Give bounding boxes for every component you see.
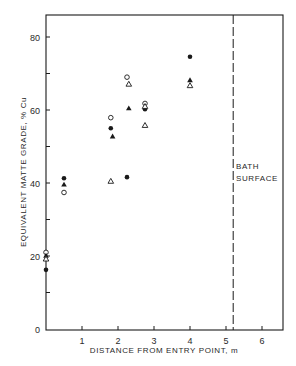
open-triangle-marker [126, 81, 132, 86]
filled-circle-marker [62, 176, 67, 181]
y-tick-label: 0 [35, 325, 40, 335]
x-tick-label: 6 [259, 336, 264, 346]
x-tick-label: 3 [151, 336, 156, 346]
bath-surface-label-line2: SURFACE [236, 174, 278, 183]
filled-triangle-marker [126, 105, 132, 110]
filled-triangle-marker [110, 133, 116, 138]
open-circle-marker [62, 190, 67, 195]
filled-circle-marker [44, 268, 49, 273]
y-tick-label: 20 [30, 252, 40, 262]
open-circle-marker [109, 115, 114, 120]
y-tick-label: 60 [30, 106, 40, 116]
open-circle-marker [125, 75, 130, 80]
axis-ticks: 123456020406080 [30, 33, 265, 347]
filled-circle-marker [109, 126, 114, 131]
filled-triangle-marker [61, 182, 67, 187]
x-tick-label: 5 [223, 336, 228, 346]
y-tick-label: 40 [30, 179, 40, 189]
x-axis-title: DISTANCE FROM ENTRY POINT, m [90, 346, 238, 355]
data-points [43, 54, 193, 272]
filled-circle-marker [125, 175, 130, 180]
y-axis-title: EQUIVALENT MATTE GRADE, % Cu [19, 97, 28, 247]
x-tick-label: 2 [115, 336, 120, 346]
open-triangle-marker [108, 178, 114, 183]
scatter-chart: 123456020406080 DISTANCE FROM ENTRY POIN… [0, 0, 296, 366]
bath-surface-label-line1: BATH [236, 162, 259, 171]
plot-border [46, 15, 283, 330]
open-triangle-marker [187, 83, 193, 88]
y-tick-label: 80 [30, 33, 40, 43]
filled-triangle-marker [187, 77, 193, 82]
plot-frame [46, 15, 283, 330]
x-tick-label: 1 [79, 336, 84, 346]
open-triangle-marker [142, 123, 148, 128]
filled-circle-marker [188, 54, 193, 59]
x-tick-label: 4 [187, 336, 192, 346]
